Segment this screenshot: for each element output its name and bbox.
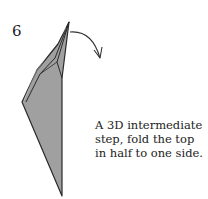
fold-arrow-icon [70,32,100,58]
origami-step-diagram: 6 A 3D intermediate step, fold the top i… [0,0,208,199]
folded-paper-figure [0,0,208,199]
caption-line: in half to one side. [95,146,203,160]
caption-line: A 3D intermediate [95,118,203,132]
caption-line: step, fold the top [95,132,203,146]
step-caption: A 3D intermediate step, fold the top in … [95,118,203,160]
paper-body [22,22,69,196]
